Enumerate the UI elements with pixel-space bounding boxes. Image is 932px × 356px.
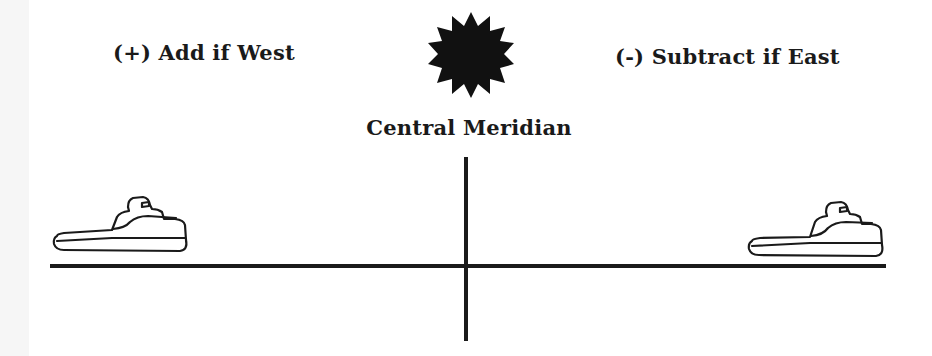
sun-burst-icon (428, 12, 514, 98)
subtract-if-east-label: (-) Subtract if East (615, 44, 840, 69)
central-meridian-label: Central Meridian (361, 115, 577, 140)
ship-west-icon (54, 197, 187, 251)
add-if-west-label: (+) Add if West (113, 40, 295, 65)
ship-east-icon (749, 202, 883, 256)
